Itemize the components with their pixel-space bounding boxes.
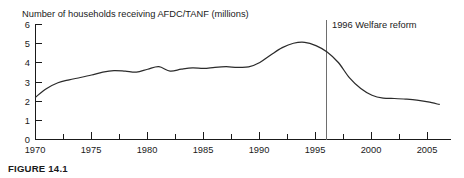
afdc-tanf-line-chart: Number of households receiving AFDC/TANF… bbox=[0, 0, 464, 178]
y-tick-label-1: 1 bbox=[25, 116, 30, 126]
x-axis: 1970 1975 1980 1985 1990 1995 2000 2005 bbox=[25, 132, 451, 156]
x-tick-label-1970: 1970 bbox=[25, 145, 46, 155]
figure-caption: FIGURE 14.1 bbox=[8, 163, 68, 174]
x-tick-labels: 1970 1975 1980 1985 1990 1995 2000 2005 bbox=[25, 145, 438, 155]
y-tick-labels: 6 5 4 3 2 1 0 bbox=[25, 20, 30, 145]
x-tick-label-1995: 1995 bbox=[305, 145, 326, 155]
welfare-reform-annotation: 1996 Welfare reform bbox=[327, 20, 417, 140]
y-axis: 6 5 4 3 2 1 0 bbox=[25, 20, 42, 145]
x-tick-label-1975: 1975 bbox=[81, 145, 102, 155]
x-tick-label-1980: 1980 bbox=[137, 145, 158, 155]
y-tick-label-2: 2 bbox=[25, 97, 30, 107]
x-tick-label-2005: 2005 bbox=[417, 145, 438, 155]
y-tick-label-4: 4 bbox=[25, 58, 30, 68]
y-tick-label-6: 6 bbox=[25, 20, 30, 30]
y-tick-label-5: 5 bbox=[25, 39, 30, 49]
chart-title: Number of households receiving AFDC/TANF… bbox=[22, 9, 249, 19]
x-tick-label-2000: 2000 bbox=[361, 145, 382, 155]
afdc-tanf-series-line bbox=[36, 42, 440, 104]
welfare-reform-label: 1996 Welfare reform bbox=[332, 20, 417, 30]
figure-container: Number of households receiving AFDC/TANF… bbox=[0, 0, 464, 178]
x-minor-tick-marks bbox=[64, 134, 400, 140]
y-tick-marks bbox=[36, 25, 42, 140]
x-tick-label-1990: 1990 bbox=[249, 145, 270, 155]
x-tick-label-1985: 1985 bbox=[193, 145, 214, 155]
y-tick-label-3: 3 bbox=[25, 78, 30, 88]
y-tick-label-0: 0 bbox=[25, 135, 30, 145]
